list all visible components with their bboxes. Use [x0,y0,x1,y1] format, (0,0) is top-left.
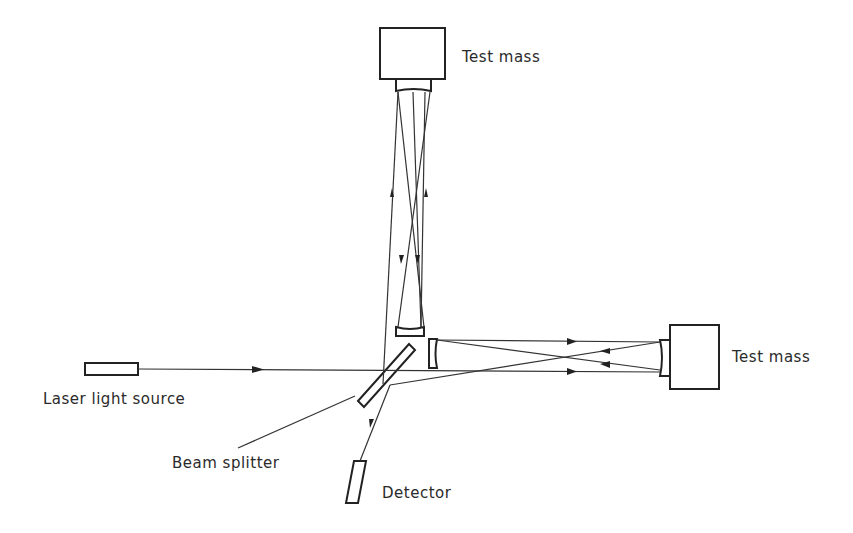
laser-source [85,363,138,375]
input-mirror-horizontal [429,339,437,368]
detector [346,461,366,503]
beam-splitter-leader [238,396,355,448]
test-mass-top-label: Test mass [461,48,540,66]
test-mass-top [380,28,445,91]
beam-splitter-label: Beam splitter [172,454,280,472]
laser-label: Laser light source [43,390,185,408]
beams [138,92,660,461]
detector-label: Detector [382,484,452,502]
test-mass-right [660,325,719,389]
beam-splitter [358,344,415,407]
interferometer-diagram: Test mass Test mass Laser light source B… [0,0,853,533]
input-mirror-vertical [396,327,424,336]
test-mass-right-label: Test mass [731,348,810,366]
